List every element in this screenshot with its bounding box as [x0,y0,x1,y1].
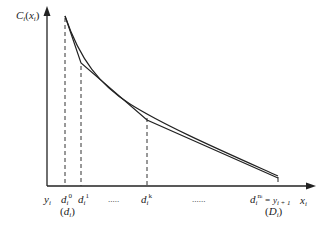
under-close: ) [279,205,283,217]
tick-sub: i [147,199,149,207]
tick-sub: i [84,199,86,207]
tick-label-dk: dik [141,193,152,207]
y-axis-arrow-icon [44,6,51,16]
tick-sub: i [49,199,51,207]
tick-sup: 1 [85,192,89,200]
tick-label-d1: di1 [78,193,89,207]
tick-sup: k [148,192,152,200]
tick-under-d0: (di) [60,206,75,219]
cost-curve [65,16,278,176]
x-axis-arrow-icon [306,183,316,190]
tick-sup: 0 [68,192,72,200]
x-axis-label: xi [300,195,307,208]
tick-sub: i [256,199,258,207]
x-label-sub: i [305,200,307,208]
ellipsis-2: ...... [192,194,206,204]
tick-eq: = y [265,195,277,205]
tick-under-dn: (Di) [265,206,282,219]
piecewise-linear-approximation [65,16,278,178]
y-axis-label: Ci(xi) [16,10,39,23]
tick-label-yi: yi [44,194,51,207]
under-close: ) [71,205,75,217]
ellipsis-1: ..... [108,194,119,204]
